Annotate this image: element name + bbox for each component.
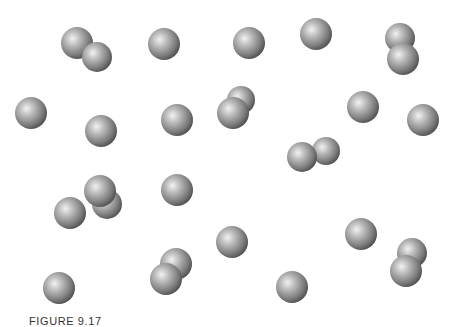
sphere xyxy=(287,142,317,172)
atom xyxy=(347,91,379,123)
sphere xyxy=(84,175,116,207)
atom xyxy=(233,27,265,59)
sphere xyxy=(233,27,265,59)
sphere xyxy=(217,97,249,129)
sphere xyxy=(43,272,75,304)
atom xyxy=(300,18,332,50)
sphere xyxy=(407,104,439,136)
sphere xyxy=(54,197,86,229)
diatomic-molecule xyxy=(287,137,340,172)
diatomic-molecule xyxy=(390,238,427,287)
atom xyxy=(85,115,117,147)
sphere xyxy=(276,271,308,303)
sphere xyxy=(82,42,112,72)
sphere xyxy=(161,174,193,206)
diatomic-molecule xyxy=(385,23,419,75)
sphere xyxy=(387,43,419,75)
sphere xyxy=(345,218,377,250)
sphere xyxy=(85,115,117,147)
atom xyxy=(161,104,193,136)
atom xyxy=(161,174,193,206)
sphere xyxy=(150,263,182,295)
sphere xyxy=(161,104,193,136)
diatomic-molecule xyxy=(217,86,255,129)
atom xyxy=(345,218,377,250)
sphere xyxy=(216,226,248,258)
sphere xyxy=(15,97,47,129)
atom xyxy=(407,104,439,136)
particles-group xyxy=(15,18,439,304)
atom xyxy=(54,197,86,229)
sphere xyxy=(347,91,379,123)
diatomic-molecule xyxy=(61,27,112,72)
diatomic-molecule xyxy=(84,175,122,219)
figure-caption: FIGURE 9.17 xyxy=(29,315,102,327)
sphere xyxy=(148,28,180,60)
atom xyxy=(43,272,75,304)
sphere xyxy=(390,255,422,287)
diatomic-molecule xyxy=(150,248,192,295)
atom xyxy=(15,97,47,129)
sphere xyxy=(300,18,332,50)
atom xyxy=(148,28,180,60)
atom xyxy=(276,271,308,303)
atom xyxy=(216,226,248,258)
